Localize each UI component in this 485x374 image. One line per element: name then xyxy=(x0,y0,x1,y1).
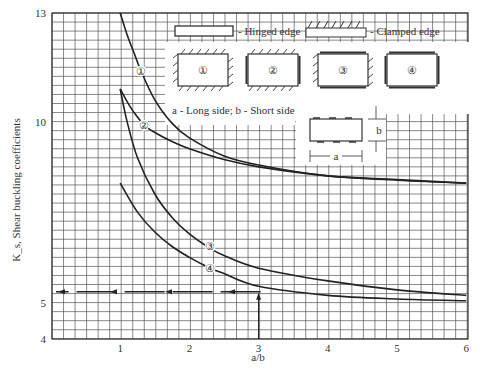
case-number-4: ④ xyxy=(407,64,417,76)
hinged-edge-label: - Hinged edge xyxy=(238,25,300,37)
case-number-1: ① xyxy=(198,64,208,76)
dimension-note: a - Long side; b - Short side xyxy=(172,104,295,116)
y-axis-label: K_s, Shear buckling coefficients xyxy=(10,118,22,261)
shear-buckling-chart: - Hinged edge- Clamped edge①②③④a - Long … xyxy=(0,0,485,374)
curve-4 xyxy=(120,183,466,301)
y-tick-5: 5 xyxy=(41,297,47,309)
clamped-edge-swatch xyxy=(306,28,366,37)
dim-b-label: b xyxy=(376,124,382,136)
x-tick-2: 2 xyxy=(187,342,193,354)
clamped-edge-label: - Clamped edge xyxy=(370,25,440,37)
curve-label-3: ③ xyxy=(205,240,215,252)
curve-label-4: ④ xyxy=(205,262,215,274)
y-tick-10: 10 xyxy=(35,116,47,128)
dimension-plate xyxy=(310,119,362,141)
case-number-3: ③ xyxy=(338,64,348,76)
y-axis-ticks: 451013 xyxy=(35,7,47,345)
case-number-2: ② xyxy=(268,64,278,76)
y-tick-13: 13 xyxy=(35,7,47,19)
x-tick-5: 5 xyxy=(394,342,400,354)
curve-label-1: ① xyxy=(136,65,146,77)
y-tick-4: 4 xyxy=(41,333,47,345)
x-tick-6: 6 xyxy=(463,342,469,354)
x-tick-4: 4 xyxy=(325,342,331,354)
dim-a-label: a xyxy=(334,150,339,162)
curve-label-2: ② xyxy=(139,119,149,131)
x-tick-1: 1 xyxy=(117,342,123,354)
x-axis-label: a/b xyxy=(251,351,265,363)
hinged-edge-swatch xyxy=(175,26,233,36)
x-axis-ticks: 123456 xyxy=(117,342,469,354)
legend-panel: - Hinged edge- Clamped edge①②③④a - Long … xyxy=(165,21,470,165)
